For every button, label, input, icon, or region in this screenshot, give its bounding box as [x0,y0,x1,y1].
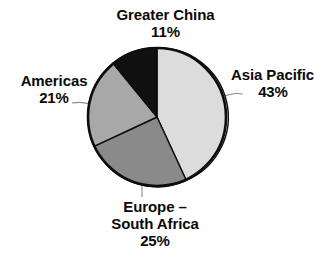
slice-label-americas-percent: 21% [2,89,106,106]
slice-label-americas: Americas 21% [2,72,106,106]
slice-label-asia-pacific-percent: 43% [231,83,331,100]
slice-label-greater-china-name: Greater China [0,6,331,23]
slice-label-europe-south-africa-name-line2: South Africa [75,215,235,232]
slice-label-europe-south-africa-percent: 25% [75,232,235,249]
slice-label-europe-south-africa: Europe – South Africa 25% [75,198,235,249]
slice-label-greater-china: Greater China 11% [0,6,331,40]
slice-label-greater-china-percent: 11% [0,23,331,40]
pie-chart-figure: Greater China 11% Asia Pacific 43% Ameri… [0,0,331,270]
slice-label-asia-pacific-name: Asia Pacific [231,66,331,83]
slice-label-americas-name: Americas [2,72,106,89]
slice-label-europe-south-africa-name-line1: Europe – [75,198,235,215]
slice-label-asia-pacific: Asia Pacific 43% [231,66,331,100]
